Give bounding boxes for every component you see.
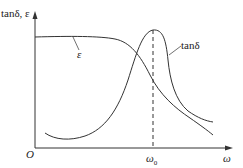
omega0-tick-label: ω0: [146, 153, 157, 167]
epsilon-curve: [35, 36, 213, 135]
epsilon-label: ε: [77, 49, 81, 60]
omega0-subscript: 0: [154, 159, 158, 167]
tan-delta-label: tanδ: [181, 40, 200, 51]
y-axis-label: tanδ, ε: [1, 8, 30, 19]
x-axis-label: ω: [223, 153, 231, 164]
origin-label: O: [26, 149, 34, 160]
omega0-base: ω: [146, 152, 154, 164]
x-axis-arrow-icon: [225, 146, 233, 151]
tan-delta-leader: [169, 46, 181, 55]
chart-canvas: [0, 0, 243, 168]
y-axis-arrow-icon: [33, 11, 38, 19]
